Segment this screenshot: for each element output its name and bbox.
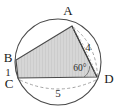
- length-label-cd: 5: [55, 87, 61, 99]
- vertex-label-b: B: [4, 50, 13, 65]
- geometry-diagram: A B C D 1 5 4 60°: [0, 0, 119, 111]
- vertex-label-d: D: [104, 71, 113, 86]
- length-label-bc: 1: [5, 66, 11, 78]
- geometry-figure-container: A B C D 1 5 4 60°: [0, 0, 119, 111]
- vertex-label-c: C: [5, 76, 14, 91]
- vertex-label-a: A: [63, 3, 73, 18]
- length-label-ad: 4: [85, 41, 91, 53]
- angle-label-d: 60°: [73, 63, 87, 73]
